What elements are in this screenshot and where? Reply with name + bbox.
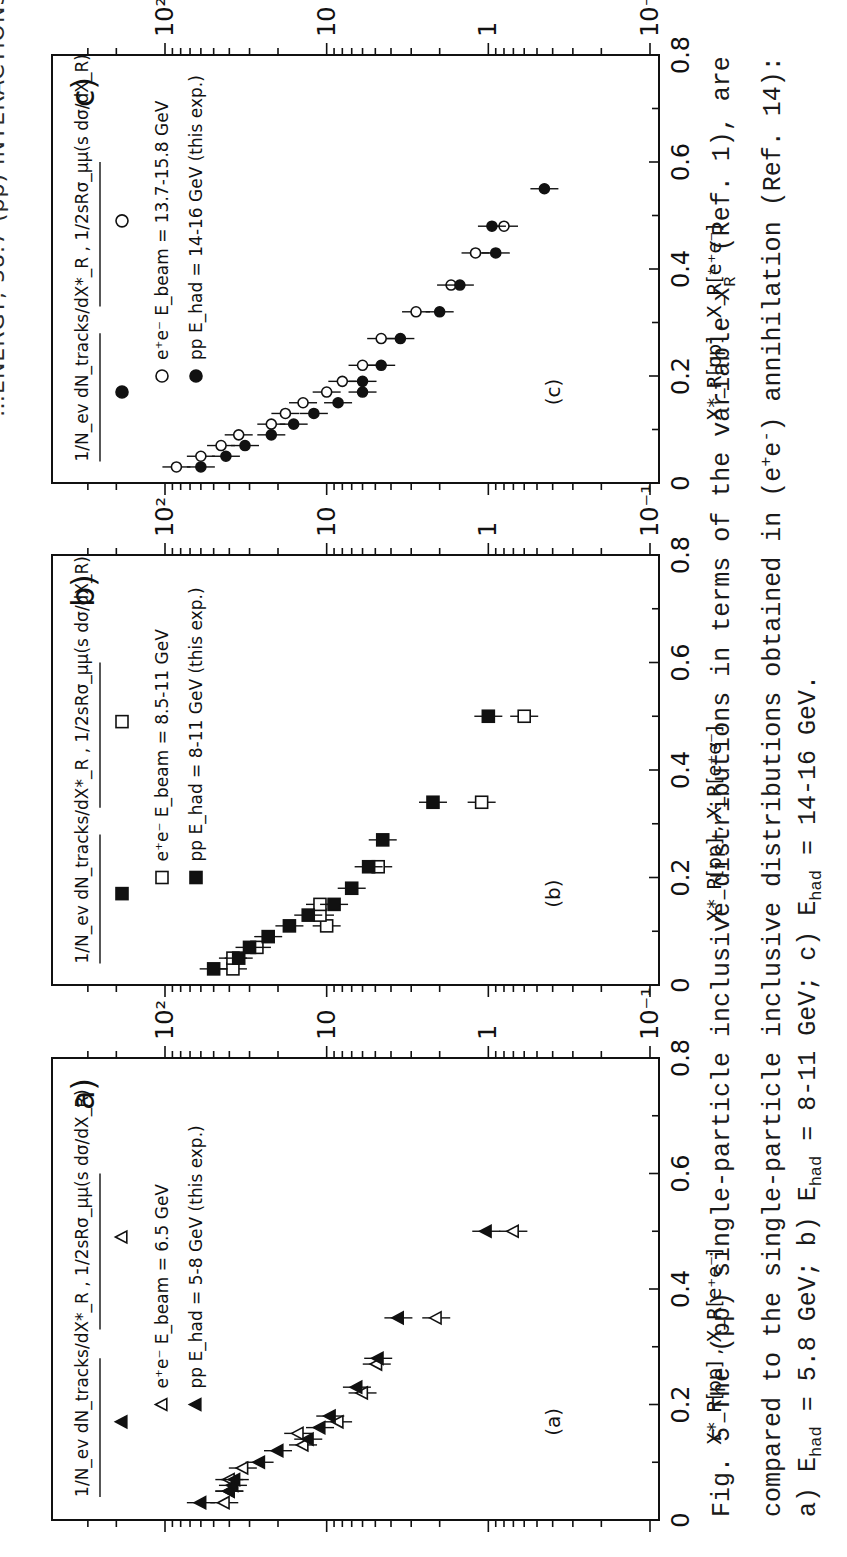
formula-pp-marker-icon [115,1416,126,1428]
data-point-marker-icon [234,430,244,440]
data-point-marker-icon [358,387,368,397]
data-point-marker-icon [328,898,340,910]
data-point-marker-icon [337,376,347,386]
y-tick-label: 10² [151,0,179,37]
legend-marker-icon [155,1399,166,1411]
data-point-marker-icon [244,941,256,953]
x-tick-label: 0 [667,475,695,490]
data-point-marker-icon [194,1497,205,1509]
data-point-marker-icon [283,920,295,932]
formula-pp-marker-icon [116,386,128,398]
data-series [187,1225,500,1508]
x-tick-label: 0.4 [667,250,695,288]
data-point-marker-icon [487,221,497,231]
data-point-marker-icon [480,1225,491,1237]
caption-line-3: a) Ehad = 5.8 GeV; b) Ehad = 8-11 GeV; c… [794,675,823,1517]
legend: e⁺e⁻ E_beam = 6.5 GeVpp E_had = 5-8 GeV … [152,1125,207,1410]
x-tick-label: 0 [667,1512,695,1527]
formula-ee-marker-icon [115,1231,126,1243]
x-tick-label: 0.8 [667,36,695,74]
chart-svg: 10²10110⁻¹00.20.40.60.8X*_R[pp] , X_R[e⁺… [0,978,800,1520]
data-point-marker-icon [196,462,206,472]
data-point-marker-icon [471,248,481,258]
legend: e⁺e⁻ E_beam = 13.7-15.8 GeVpp E_had = 14… [152,75,207,382]
x-axis-ticks [649,55,659,483]
legend-label: e⁺e⁻ E_beam = 8.5-11 GeV [152,629,173,862]
data-point-marker-icon [218,1497,229,1509]
ordinate-formula: 1/N_ev dN_tracks/dX*_R , 1/2sRσ_μμ(s dσ/… [72,556,128,964]
legend-marker-icon [189,1399,200,1411]
panel-inner-label: (a) [541,1408,565,1436]
plot-frame [52,55,659,483]
data-point-marker-icon [240,441,250,451]
x-axis-ticks [649,1058,659,1520]
svg-text:1/N_ev dN_tracks/dX*_R , 1/2: 1/N_ev dN_tracks/dX*_R , 1/2sRσ_μμ(s dσ/… [72,556,93,964]
data-point-marker-icon [392,1312,403,1324]
y-tick-label: 10 [313,1009,341,1040]
caption-line-1: Fig. 5 The (pp) single-particle inclusiv… [708,56,737,1517]
data-point-marker-icon [358,360,368,370]
data-point-marker-icon [482,710,494,722]
legend-label: pp E_had = 14-16 GeV (this exp.) [186,75,207,360]
panel-inner-label: (c) [541,379,565,406]
x-tick-label: 0.8 [667,536,695,574]
data-point-marker-icon [302,909,314,921]
panel-inner-label: (b) [541,879,565,907]
svg-text:1/N_ev dN_tracks/dX*_R , 1/2: 1/N_ev dN_tracks/dX*_R , 1/2sRσ_μμ(s dσ/… [72,54,93,462]
panel-c: 10²10110⁻¹00.20.40.60.8X*_R[pp] , X_R[e⁺… [0,55,700,483]
data-point-marker-icon [476,796,488,808]
data-point-marker-icon [313,1422,324,1434]
plot-frame [52,555,659,985]
svg-text:1/N_ev dN_tracks/dX*_R , 1/2: 1/N_ev dN_tracks/dX*_R , 1/2sRσ_μμ(s dσ/… [72,1089,93,1497]
data-point-marker-icon [208,963,220,975]
y-axis-ticks [88,1046,650,1532]
data-point-marker-icon [539,184,549,194]
data-point-marker-icon [430,1312,441,1324]
data-point-marker-icon [346,882,358,894]
x-tick-label: 0 [667,977,695,992]
y-tick-label: 10 [313,506,341,537]
chart-svg: 10²10110⁻¹00.20.40.60.8X*_R[pp] , X_R[e⁺… [0,475,800,985]
y-tick-label: 10² [151,497,179,537]
legend-marker-icon [190,370,202,382]
x-tick-label: 0.2 [667,858,695,896]
data-series [210,1225,527,1508]
data-point-marker-icon [236,1462,247,1474]
panel-b: 10²10110⁻¹00.20.40.60.8X*_R[pp] , X_R[e⁺… [0,555,700,985]
legend-label: pp E_had = 5-8 GeV (this exp.) [186,1125,207,1388]
data-series [200,710,503,975]
data-point-marker-icon [280,408,290,418]
legend: e⁺e⁻ E_beam = 8.5-11 GeVpp E_had = 8-11 … [152,587,207,883]
data-point-marker-icon [221,451,231,461]
data-point-marker-icon [491,248,501,258]
data-series [162,221,518,472]
rotated-page: …ENERGY, 38.7 (pp) INTERACTIONS 10²10110… [0,0,847,1557]
data-point-marker-icon [411,307,421,317]
formula-ee-marker-icon [116,215,128,227]
data-point-marker-icon [333,398,343,408]
data-point-marker-icon [377,834,389,846]
data-point-marker-icon [322,387,332,397]
data-point-marker-icon [376,334,386,344]
legend-label: e⁺e⁻ E_beam = 6.5 GeV [152,1184,173,1389]
y-tick-label: 10 [313,6,341,37]
y-tick-label: 1 [474,522,502,537]
data-point-marker-icon [395,334,405,344]
data-point-marker-icon [266,430,276,440]
legend-marker-icon [156,370,168,382]
data-point-marker-icon [518,710,530,722]
x-tick-label: 0.6 [667,643,695,681]
data-point-marker-icon [376,360,386,370]
data-point-marker-icon [455,280,465,290]
ordinate-formula: 1/N_ev dN_tracks/dX*_R , 1/2sRσ_μμ(s dσ/… [72,54,128,462]
caption-line-2: compared to the single-particle inclusiv… [759,56,788,1517]
data-point-marker-icon [435,307,445,317]
data-point-marker-icon [350,1381,361,1393]
legend-label: e⁺e⁻ E_beam = 13.7-15.8 GeV [152,100,173,360]
x-axis-ticks [649,555,659,985]
data-point-marker-icon [298,398,308,408]
data-point-marker-icon [324,1410,335,1422]
x-tick-label: 0.2 [667,1385,695,1423]
x-tick-label: 0.4 [667,751,695,789]
data-point-marker-icon [266,419,276,429]
